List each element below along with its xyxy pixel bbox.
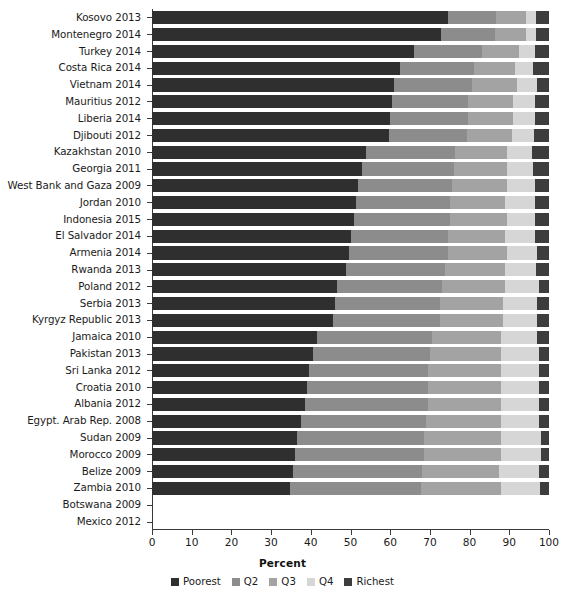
bar-segment-poorest[interactable] — [152, 381, 307, 394]
bar-segment-q2[interactable] — [394, 78, 471, 91]
stacked-bar[interactable] — [152, 364, 549, 377]
bar-segment-poorest[interactable] — [152, 196, 356, 209]
bar-segment-q2[interactable] — [389, 129, 466, 142]
bar-segment-q3[interactable] — [430, 347, 501, 360]
bar-segment-poorest[interactable] — [152, 482, 290, 495]
bar-segment-q4[interactable] — [503, 314, 537, 327]
bar-segment-poorest[interactable] — [152, 95, 392, 108]
bar-segment-q4[interactable] — [505, 263, 537, 276]
bar-segment-poorest[interactable] — [152, 62, 400, 75]
bar-segment-q3[interactable] — [468, 95, 514, 108]
bar-segment-q3[interactable] — [428, 364, 501, 377]
bar-segment-richest[interactable] — [533, 162, 549, 175]
legend-item[interactable]: Q3 — [269, 576, 296, 587]
bar-segment-q4[interactable] — [501, 331, 537, 344]
bar-segment-q3[interactable] — [496, 11, 526, 24]
bar-segment-richest[interactable] — [533, 62, 549, 75]
stacked-bar[interactable] — [152, 280, 549, 293]
bar-segment-poorest[interactable] — [152, 213, 354, 226]
bar-segment-richest[interactable] — [537, 78, 549, 91]
bar-segment-poorest[interactable] — [152, 280, 337, 293]
bar-segment-q2[interactable] — [351, 230, 448, 243]
stacked-bar[interactable] — [152, 381, 549, 394]
bar-segment-q4[interactable] — [501, 448, 541, 461]
bar-segment-richest[interactable] — [539, 398, 549, 411]
bar-segment-q2[interactable] — [295, 448, 424, 461]
stacked-bar[interactable] — [152, 246, 549, 259]
bar-segment-q4[interactable] — [507, 246, 537, 259]
bar-segment-q3[interactable] — [422, 465, 499, 478]
bar-segment-poorest[interactable] — [152, 230, 351, 243]
legend-item[interactable]: Q4 — [307, 576, 334, 587]
bar-segment-poorest[interactable] — [152, 398, 305, 411]
bar-segment-q3[interactable] — [421, 482, 500, 495]
bar-segment-q3[interactable] — [428, 381, 501, 394]
stacked-bar[interactable] — [152, 398, 549, 411]
bar-segment-q3[interactable] — [454, 162, 508, 175]
bar-segment-q2[interactable] — [335, 297, 440, 310]
bar-segment-q2[interactable] — [448, 11, 496, 24]
bar-segment-richest[interactable] — [541, 431, 549, 444]
bar-segment-q2[interactable] — [313, 347, 430, 360]
bar-segment-q2[interactable] — [414, 45, 481, 58]
stacked-bar[interactable] — [152, 230, 549, 243]
bar-segment-q2[interactable] — [366, 146, 455, 159]
bar-segment-q2[interactable] — [346, 263, 445, 276]
stacked-bar[interactable] — [152, 515, 549, 528]
bar-segment-q2[interactable] — [290, 482, 421, 495]
bar-segment-q3[interactable] — [424, 448, 501, 461]
bar-segment-q3[interactable] — [448, 230, 506, 243]
bar-segment-richest[interactable] — [539, 381, 549, 394]
stacked-bar[interactable] — [152, 45, 549, 58]
bar-segment-q3[interactable] — [450, 213, 508, 226]
stacked-bar[interactable] — [152, 162, 549, 175]
stacked-bar[interactable] — [152, 465, 549, 478]
bar-segment-poorest[interactable] — [152, 465, 293, 478]
bar-segment-q2[interactable] — [358, 179, 451, 192]
stacked-bar[interactable] — [152, 297, 549, 310]
bar-segment-q2[interactable] — [333, 314, 440, 327]
bar-segment-richest[interactable] — [539, 415, 549, 428]
bar-segment-poorest[interactable] — [152, 415, 301, 428]
bar-segment-q2[interactable] — [356, 196, 449, 209]
stacked-bar[interactable] — [152, 448, 549, 461]
bar-segment-richest[interactable] — [535, 45, 549, 58]
stacked-bar[interactable] — [152, 263, 549, 276]
bar-segment-q4[interactable] — [499, 465, 539, 478]
bar-segment-q4[interactable] — [501, 431, 541, 444]
bar-segment-poorest[interactable] — [152, 448, 295, 461]
legend-item[interactable]: Poorest — [171, 576, 221, 587]
bar-segment-q2[interactable] — [390, 112, 467, 125]
bar-segment-q2[interactable] — [400, 62, 473, 75]
stacked-bar[interactable] — [152, 314, 549, 327]
bar-segment-q3[interactable] — [467, 129, 513, 142]
bar-segment-q4[interactable] — [507, 213, 535, 226]
bar-segment-poorest[interactable] — [152, 78, 394, 91]
stacked-bar[interactable] — [152, 129, 549, 142]
bar-segment-q3[interactable] — [452, 179, 508, 192]
stacked-bar[interactable] — [152, 482, 549, 495]
bar-segment-richest[interactable] — [537, 246, 549, 259]
bar-segment-q3[interactable] — [472, 78, 518, 91]
bar-segment-q3[interactable] — [426, 415, 501, 428]
bar-segment-q4[interactable] — [501, 347, 539, 360]
bar-segment-q4[interactable] — [505, 230, 535, 243]
bar-segment-q3[interactable] — [482, 45, 520, 58]
bar-segment-q4[interactable] — [501, 415, 539, 428]
bar-segment-q4[interactable] — [526, 11, 537, 24]
bar-segment-q2[interactable] — [293, 465, 422, 478]
bar-segment-q3[interactable] — [445, 263, 505, 276]
bar-segment-q3[interactable] — [495, 28, 527, 41]
bar-segment-q4[interactable] — [513, 95, 535, 108]
bar-segment-q2[interactable] — [349, 246, 448, 259]
bar-segment-richest[interactable] — [535, 179, 549, 192]
bar-segment-richest[interactable] — [539, 347, 549, 360]
bar-segment-q2[interactable] — [362, 162, 453, 175]
bar-segment-q2[interactable] — [301, 415, 426, 428]
bar-segment-poorest[interactable] — [152, 297, 335, 310]
bar-segment-q2[interactable] — [309, 364, 428, 377]
bar-segment-poorest[interactable] — [152, 364, 309, 377]
bar-segment-q3[interactable] — [442, 280, 506, 293]
bar-segment-richest[interactable] — [535, 230, 549, 243]
legend-item[interactable]: Richest — [344, 576, 394, 587]
